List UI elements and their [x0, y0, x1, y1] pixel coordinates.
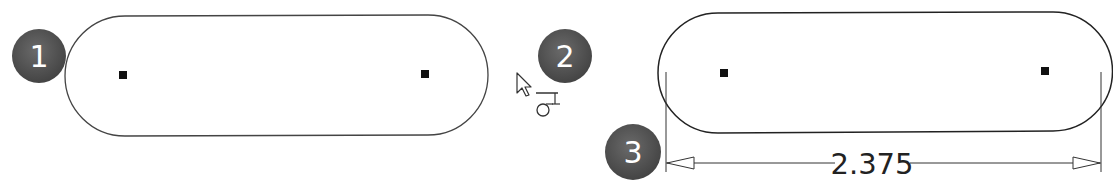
- dimension-value[interactable]: 2.375: [830, 147, 913, 181]
- step-number-3: 3: [623, 135, 642, 170]
- dimension-tool-icon: [536, 93, 560, 116]
- dimension-annotation[interactable]: 2.375: [666, 72, 1101, 181]
- slot-sketch-right: [658, 12, 1113, 133]
- step-number-2: 2: [555, 39, 574, 74]
- center-point-left[interactable]: [119, 71, 127, 79]
- center-point-right[interactable]: [421, 70, 429, 78]
- step-badge-3: 3: [605, 124, 661, 180]
- step-number-1: 1: [29, 39, 48, 74]
- step-badge-2: 2: [538, 29, 592, 83]
- step-badge-1: 1: [12, 29, 66, 83]
- center-point-right-2[interactable]: [1041, 67, 1049, 75]
- slot-sketch-left: [65, 15, 488, 136]
- cursor-pointer-icon: [517, 73, 531, 96]
- center-point-left-2[interactable]: [720, 69, 728, 77]
- sketch-diagram: 1 2 2.375 3: [0, 0, 1113, 189]
